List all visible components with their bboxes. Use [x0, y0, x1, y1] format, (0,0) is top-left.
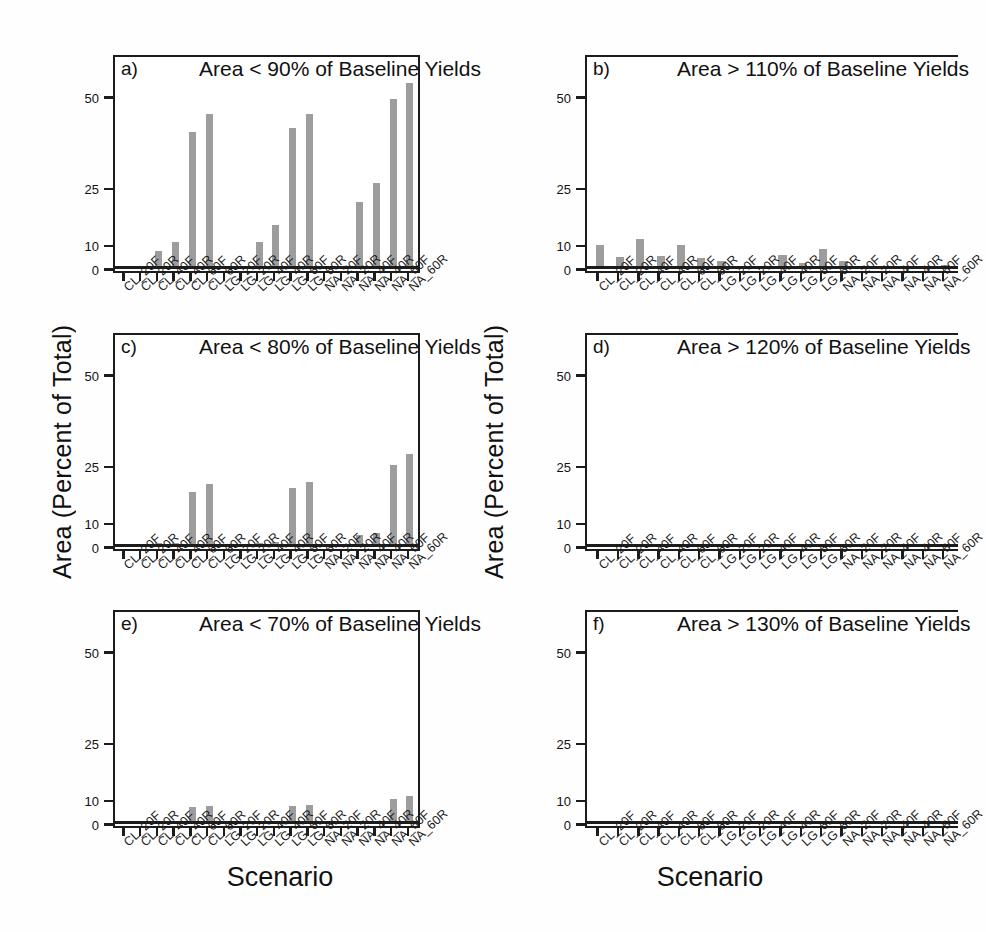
- y-tick-label-10: 10: [65, 239, 99, 254]
- plot-area-f: [585, 610, 958, 828]
- y-tick-25: [104, 466, 113, 469]
- x-tick: [840, 551, 843, 559]
- x-tick: [779, 828, 782, 836]
- x-tick-group-f: CL_20FCL_20RCL_40FCL_40RCL_60FCL_60RLG_2…: [585, 828, 958, 888]
- y-tick-25: [576, 743, 585, 746]
- y-tick-25: [576, 188, 585, 191]
- chart-panel-e: e)Area < 70% of Baseline Yields0102550CL…: [113, 610, 420, 828]
- bar-series-a: [115, 57, 418, 271]
- y-tick-50: [576, 651, 585, 654]
- plot-area-a: [113, 55, 420, 273]
- bar: [596, 245, 604, 267]
- y-tick-label-50: 50: [65, 369, 99, 384]
- plot-area-c: [113, 333, 420, 551]
- y-tick-label-10: 10: [537, 239, 571, 254]
- y-tick-label-0: 0: [537, 541, 571, 556]
- bar: [289, 128, 296, 267]
- y-tick-50: [576, 96, 585, 99]
- y-tick-50: [104, 374, 113, 377]
- bar-series-d: [587, 335, 958, 549]
- y-tick-10: [576, 800, 585, 803]
- y-tick-label-25: 25: [537, 182, 571, 197]
- y-axis-title-right-column: Area (Percent of Total): [480, 252, 509, 652]
- y-tick-25: [104, 188, 113, 191]
- y-tick-10: [576, 523, 585, 526]
- bar: [306, 114, 313, 268]
- plot-area-b: [585, 55, 958, 273]
- bar-series-e: [115, 612, 418, 826]
- x-tick: [901, 273, 904, 281]
- y-tick-10: [104, 523, 113, 526]
- x-tick: [901, 828, 904, 836]
- y-tick-50: [104, 651, 113, 654]
- bar: [206, 114, 213, 268]
- x-tick: [779, 273, 782, 281]
- panel-letter-c: c): [121, 336, 137, 358]
- y-tick-label-50: 50: [65, 91, 99, 106]
- panel-title-a: Area < 90% of Baseline Yields: [199, 57, 481, 81]
- x-tick: [779, 551, 782, 559]
- chart-panel-d: d)Area > 120% of Baseline Yields0102550C…: [585, 333, 958, 551]
- x-tick-group-e: CL_20FCL_20RCL_40FCL_40RCL_60FCL_60RLG_2…: [113, 828, 420, 888]
- y-tick-label-50: 50: [65, 646, 99, 661]
- panel-letter-d: d): [593, 336, 610, 358]
- y-tick-label-0: 0: [537, 818, 571, 833]
- y-tick-label-25: 25: [65, 460, 99, 475]
- plot-area-d: [585, 333, 958, 551]
- y-tick-label-0: 0: [537, 263, 571, 278]
- y-tick-label-25: 25: [537, 460, 571, 475]
- panel-title-e: Area < 70% of Baseline Yields: [199, 612, 481, 636]
- chart-panel-f: f)Area > 130% of Baseline Yields0102550C…: [585, 610, 958, 828]
- y-tick-label-10: 10: [65, 517, 99, 532]
- chart-panel-a: a)Area < 90% of Baseline Yields0102550CL…: [113, 55, 420, 273]
- y-tick-0: [576, 823, 585, 826]
- panel-letter-e: e): [121, 613, 138, 635]
- x-tick-group-a: CL_20FCL_20RCL_40FCL_40RCL_60FCL_60RLG_2…: [113, 273, 420, 333]
- panel-title-f: Area > 130% of Baseline Yields: [677, 612, 971, 636]
- y-tick-10: [104, 245, 113, 248]
- panel-letter-a: a): [121, 58, 138, 80]
- panel-title-d: Area > 120% of Baseline Yields: [677, 335, 971, 359]
- panel-title-c: Area < 80% of Baseline Yields: [199, 335, 481, 359]
- y-tick-label-0: 0: [65, 541, 99, 556]
- x-tick: [901, 551, 904, 559]
- y-tick-10: [104, 800, 113, 803]
- panel-letter-b: b): [593, 58, 610, 80]
- bar-series-f: [587, 612, 958, 826]
- plot-area-e: [113, 610, 420, 828]
- bar-series-c: [115, 335, 418, 549]
- panel-letter-f: f): [593, 613, 605, 635]
- y-tick-0: [104, 268, 113, 271]
- y-tick-50: [576, 374, 585, 377]
- chart-panel-b: b)Area > 110% of Baseline Yields0102550C…: [585, 55, 958, 273]
- panel-title-b: Area > 110% of Baseline Yields: [677, 57, 969, 81]
- y-tick-label-50: 50: [537, 369, 571, 384]
- y-tick-label-10: 10: [65, 794, 99, 809]
- y-tick-50: [104, 96, 113, 99]
- x-tick: [840, 273, 843, 281]
- x-tick-group-b: CL_20FCL_20RCL_40FCL_40RCL_60FCL_60RLG_2…: [585, 273, 958, 333]
- y-tick-0: [104, 546, 113, 549]
- y-tick-label-0: 0: [65, 263, 99, 278]
- y-tick-25: [104, 743, 113, 746]
- y-tick-label-10: 10: [537, 517, 571, 532]
- bar: [189, 132, 196, 268]
- y-tick-label-25: 25: [65, 737, 99, 752]
- y-tick-0: [576, 268, 585, 271]
- y-axis-title-left-column: Area (Percent of Total): [48, 252, 77, 652]
- x-tick: [840, 828, 843, 836]
- y-tick-label-50: 50: [537, 646, 571, 661]
- bar: [390, 99, 397, 268]
- y-tick-label-50: 50: [537, 91, 571, 106]
- y-tick-label-10: 10: [537, 794, 571, 809]
- y-tick-label-25: 25: [537, 737, 571, 752]
- bar-series-b: [587, 57, 958, 271]
- y-tick-0: [104, 823, 113, 826]
- bar: [406, 83, 413, 268]
- x-tick-group-d: CL_20FCL_20RCL_40FCL_40RCL_60FCL_60RLG_2…: [585, 551, 958, 611]
- y-tick-label-25: 25: [65, 182, 99, 197]
- x-tick-group-c: CL_20FCL_20RCL_40FCL_40RCL_60FCL_60RLG_2…: [113, 551, 420, 611]
- y-tick-label-0: 0: [65, 818, 99, 833]
- y-tick-25: [576, 466, 585, 469]
